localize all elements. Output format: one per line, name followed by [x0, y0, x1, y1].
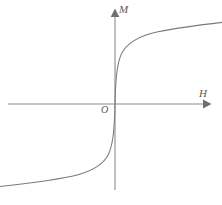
horizontal-axis-label: H [199, 88, 207, 99]
magnetization-curve-figure: M H O [0, 0, 222, 205]
horizontal-axis-arrowhead [203, 100, 212, 109]
plot-canvas [0, 0, 222, 205]
vertical-axis-arrowhead [111, 9, 120, 18]
origin-label: O [101, 105, 108, 115]
vertical-axis-label: M [119, 4, 128, 15]
